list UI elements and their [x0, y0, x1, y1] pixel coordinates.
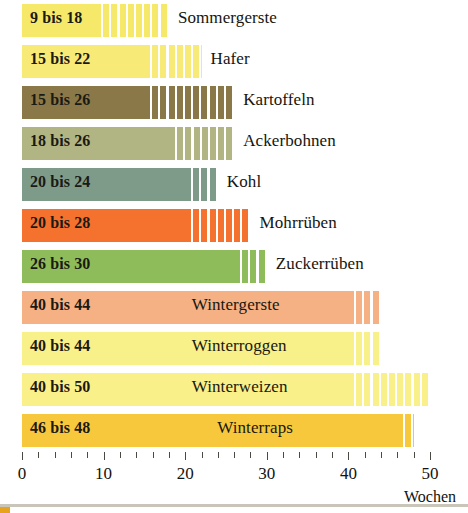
bar-range-label: 40 bis 44 [30, 288, 90, 321]
bottom-divider [0, 504, 468, 507]
bar-range-label: 40 bis 50 [30, 370, 90, 403]
bar-category-label: Wintergerste [192, 288, 280, 321]
axis-tick-minor [316, 452, 317, 458]
axis-tick-minor [87, 452, 88, 458]
bar-category-label: Winterraps [217, 411, 293, 444]
chart-row: 40 bis 44Winterroggen [0, 329, 468, 369]
axis-tick-minor [283, 452, 284, 458]
axis-tick-minor [169, 452, 170, 458]
axis-tick-minor [365, 452, 366, 458]
bar-category-label: Hafer [211, 42, 250, 75]
bar-segment-range-extension [169, 127, 234, 160]
chart-row: 20 bis 28Mohrrüben [0, 206, 468, 246]
bar-category-label: Mohrrüben [259, 206, 336, 239]
axis-tick-minor [299, 452, 300, 458]
chart-row: 40 bis 44Wintergerste [0, 288, 468, 328]
bar-segment-range-extension [185, 209, 250, 242]
bar-category-label: Sommergerste [178, 1, 277, 34]
bar-segment-range-extension [95, 4, 168, 37]
axis-tick-label: 0 [18, 464, 27, 484]
axis-tick-minor [381, 452, 382, 458]
bar-category-label: Ackerbohnen [243, 124, 336, 157]
bar-category-label: Winterweizen [192, 370, 288, 403]
bar-segment-range-extension [185, 168, 218, 201]
axis-tick-minor [397, 452, 398, 458]
bar-category-label: Winterroggen [192, 329, 287, 362]
chart-row: 46 bis 48Winterraps [0, 411, 468, 451]
bar-range-label: 9 bis 18 [30, 1, 82, 34]
bar-segment-range-extension [348, 373, 430, 406]
chart-row: 9 bis 18Sommergerste [0, 1, 468, 41]
bar-category-label: Zuckerrüben [276, 247, 364, 280]
axis-tick-minor [250, 452, 251, 458]
bar-segment-range-extension [144, 86, 234, 119]
chart-row: 20 bis 24Kohl [0, 165, 468, 205]
crop-growing-period-chart: 9 bis 18Sommergerste15 bis 22Hafer15 bis… [0, 0, 468, 513]
axis-tick-minor [120, 452, 121, 458]
chart-row: 18 bis 26Ackerbohnen [0, 124, 468, 164]
axis-tick-minor [55, 452, 56, 458]
axis-tick-minor [332, 452, 333, 458]
bar-segment-range-extension [397, 414, 413, 447]
bar-segment-range-extension [348, 332, 381, 365]
bar-segment-range-extension [348, 291, 381, 324]
axis-tick-label: 10 [95, 464, 112, 484]
bar-range-label: 20 bis 24 [30, 165, 90, 198]
bar-range-label: 40 bis 44 [30, 329, 90, 362]
chart-row: 40 bis 50Winterweizen [0, 370, 468, 410]
axis-tick-minor [234, 452, 235, 458]
axis-tick-minor [153, 452, 154, 458]
bar-range-label: 18 bis 26 [30, 124, 90, 157]
axis-tick-minor [414, 452, 415, 458]
chart-row: 15 bis 22Hafer [0, 42, 468, 82]
chart-row: 26 bis 30Zuckerrüben [0, 247, 468, 287]
bar-range-label: 15 bis 22 [30, 42, 90, 75]
bar-range-label: 20 bis 28 [30, 206, 90, 239]
bar-range-label: 26 bis 30 [30, 247, 90, 280]
bar-range-label: 15 bis 26 [30, 83, 90, 116]
axis-tick-minor [202, 452, 203, 458]
axis-tick-minor [136, 452, 137, 458]
axis-tick-major [185, 452, 186, 460]
axis-tick-major [430, 452, 431, 460]
axis-tick-major [348, 452, 349, 460]
axis-tick-minor [38, 452, 39, 458]
bar-category-label: Kohl [227, 165, 261, 198]
bar-range-label: 46 bis 48 [30, 411, 90, 444]
axis-tick-major [104, 452, 105, 460]
axis-tick-label: 50 [422, 464, 439, 484]
bar-segment-range-extension [234, 250, 267, 283]
axis-tick-major [22, 452, 23, 460]
bar-category-label: Kartoffeln [243, 83, 315, 116]
axis-tick-label: 40 [340, 464, 357, 484]
bar-segment-range-extension [144, 45, 201, 78]
axis-tick-label: 30 [258, 464, 275, 484]
bottom-accent-mark [0, 507, 10, 513]
chart-row: 15 bis 26Kartoffeln [0, 83, 468, 123]
axis-tick-label: 20 [177, 464, 194, 484]
axis-tick-minor [71, 452, 72, 458]
axis-tick-major [267, 452, 268, 460]
axis-tick-minor [218, 452, 219, 458]
